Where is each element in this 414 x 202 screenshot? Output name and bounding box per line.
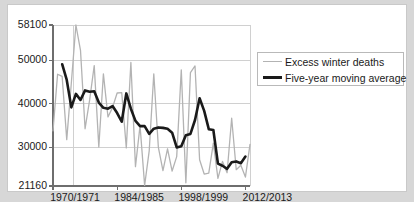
y-axis-tick-label: 21160 <box>5 179 47 191</box>
y-axis-tick-label: 40000 <box>5 97 47 109</box>
y-axis-tick-label: 58100 <box>5 18 47 30</box>
legend-line-icon-excess-winter-deaths <box>263 57 282 67</box>
legend-label: Excess winter deaths <box>285 56 384 68</box>
legend-line-icon-five-year-moving-average <box>263 73 282 83</box>
y-axis-tick-label: 50000 <box>5 53 47 65</box>
legend-item-five-year-moving-average: Five-year moving average <box>258 69 403 86</box>
legend-item-excess-winter-deaths: Excess winter deaths <box>258 53 403 70</box>
x-axis-tick-label: 2012/2013 <box>227 191 307 202</box>
plot-area <box>8 5 408 193</box>
chart-screenshot: 5810050000400003000021160 1970/19711984/… <box>0 0 414 202</box>
series-excess-winter-deaths <box>53 25 250 185</box>
y-axis-tick-label: 30000 <box>5 140 47 152</box>
legend-label: Five-year moving average <box>285 72 406 84</box>
chart-legend: Excess winter deaths Five-year moving av… <box>257 52 404 86</box>
chart-panel: 5810050000400003000021160 1970/19711984/… <box>7 4 407 192</box>
